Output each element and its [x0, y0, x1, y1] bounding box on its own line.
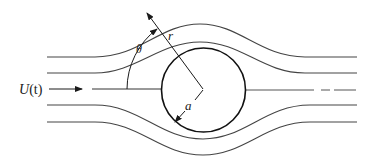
theta-label: θ — [136, 42, 142, 56]
cylinder-flow-diagram: U(t) θ r a — [0, 0, 377, 167]
theta-arc — [127, 29, 157, 89]
cylinder — [162, 48, 246, 132]
cylinder-radius-line-lower — [175, 111, 185, 122]
a-label: a — [185, 98, 192, 113]
cylinder-radius-line-upper — [195, 90, 203, 100]
streamline-upper-outer — [47, 24, 357, 57]
r-label: r — [168, 28, 174, 43]
freestream-label: U(t) — [19, 82, 43, 98]
diagram-canvas: U(t) θ r a — [0, 0, 377, 167]
